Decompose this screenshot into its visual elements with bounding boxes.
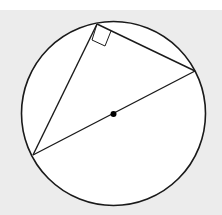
geometry-diagram	[0, 0, 222, 215]
center-point	[111, 111, 117, 117]
